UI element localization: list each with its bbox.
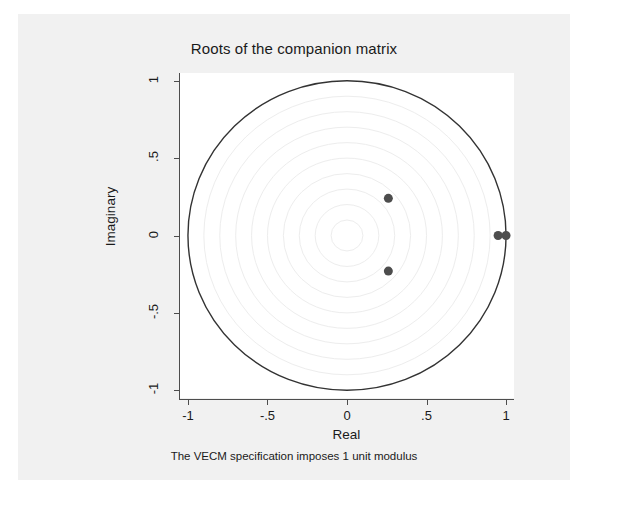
y-axis-tick-label: .5 xyxy=(146,140,161,174)
y-axis-tick xyxy=(174,390,179,391)
x-axis-tick xyxy=(188,400,189,405)
x-axis-tick-label: -1 xyxy=(168,408,208,423)
x-axis-tick-label: -.5 xyxy=(247,408,287,423)
gridline-circle xyxy=(252,143,443,329)
chart-screenshot: Roots of the companion matrix -1-.50.51 … xyxy=(0,0,635,505)
y-axis-tick xyxy=(174,236,179,237)
y-axis-tick-label: 1 xyxy=(146,62,161,96)
plot-svg xyxy=(180,73,514,398)
y-axis-tick-label: -.5 xyxy=(146,294,161,328)
data-point-marker xyxy=(502,231,511,240)
y-axis-tick xyxy=(174,81,179,82)
y-axis-tick-label: -1 xyxy=(146,372,161,406)
gridline-circle xyxy=(220,112,474,360)
gridline-circle xyxy=(315,205,379,267)
x-axis-tick-label: .5 xyxy=(407,408,447,423)
data-point-marker xyxy=(494,231,503,240)
x-axis-tick-label: 0 xyxy=(327,408,367,423)
y-axis-title: Imaginary xyxy=(103,117,118,317)
gridline-circle xyxy=(299,189,394,282)
graph-canvas: Roots of the companion matrix -1-.50.51 … xyxy=(18,14,570,480)
chart-note: The VECM specification imposes 1 unit mo… xyxy=(18,450,570,462)
x-axis-tick-label: 1 xyxy=(486,408,526,423)
data-point-marker xyxy=(384,194,393,203)
x-axis-tick xyxy=(506,400,507,405)
y-axis-line xyxy=(179,73,180,399)
data-point-marker xyxy=(384,267,393,276)
gridline-circle xyxy=(236,127,459,344)
x-axis-tick xyxy=(427,400,428,405)
y-axis-tick-label: 0 xyxy=(146,217,161,251)
x-axis-tick xyxy=(267,400,268,405)
y-axis-tick xyxy=(174,158,179,159)
plot-region xyxy=(180,73,514,398)
chart-title: Roots of the companion matrix xyxy=(18,40,570,57)
x-axis-tick xyxy=(347,400,348,405)
gridline-circle xyxy=(283,174,410,298)
gridline-circles xyxy=(204,96,490,375)
gridline-circle xyxy=(204,96,490,375)
gridline-circle xyxy=(267,158,426,313)
gridline-circle xyxy=(331,220,363,251)
x-axis-title: Real xyxy=(179,427,514,442)
y-axis-tick xyxy=(174,313,179,314)
